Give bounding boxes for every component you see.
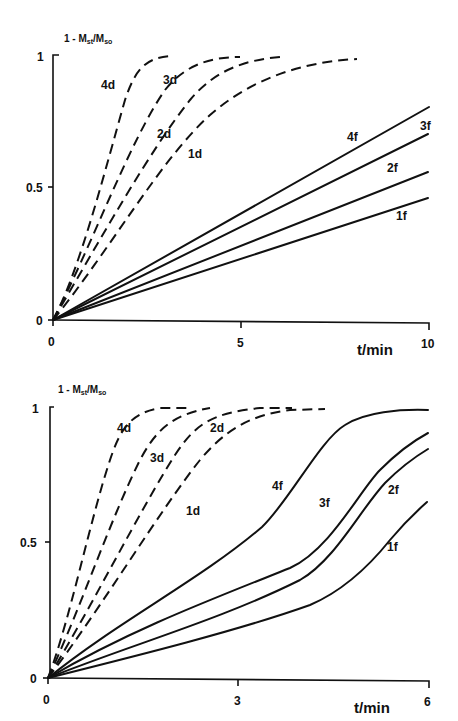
bottom-label-3d: 3d: [150, 451, 164, 465]
top-curve-3d: [53, 57, 240, 320]
top-y-axis-title: 1 - Mst/Mso: [64, 33, 112, 45]
bottom-ytick-label-05: 0.5: [20, 536, 37, 550]
top-label-3d: 3d: [163, 73, 177, 87]
top-label-4f: 4f: [347, 130, 359, 144]
top-label-2f: 2f: [387, 161, 399, 175]
top-x-axis-title: t/min: [357, 341, 393, 358]
top-label-1f: 1f: [396, 209, 408, 223]
bottom-curve-3f: [48, 433, 428, 678]
top-chart: 1 - Mst/Mso 1 0.5 0 0 5 10 t/min 4d 3d 2…: [26, 33, 435, 358]
top-curve-2f: [53, 172, 428, 320]
top-ytick-label-0: 0: [36, 314, 43, 328]
bottom-x-axis-title: t/min: [354, 699, 390, 716]
top-curve-2d: [53, 57, 280, 320]
bottom-ytick-label-1: 1: [32, 402, 39, 416]
bottom-curve-3d: [48, 408, 210, 678]
top-curve-3f: [53, 134, 428, 320]
bottom-label-4f: 4f: [272, 479, 284, 493]
top-label-2d: 2d: [157, 127, 171, 141]
top-ytick-label-05: 0.5: [26, 181, 43, 195]
top-y-axis: [53, 55, 59, 320]
top-curve-1f: [53, 198, 428, 320]
bottom-y-axis-title: 1 - Mst/Mso: [58, 384, 106, 396]
bottom-curve-2f: [48, 449, 428, 678]
bottom-xtick-label-3: 3: [234, 694, 241, 708]
bottom-label-1d: 1d: [186, 504, 200, 518]
top-xtick-label-5: 5: [237, 336, 244, 350]
bottom-curve-2d: [48, 408, 292, 678]
bottom-curve-1d: [48, 409, 325, 678]
top-label-1d: 1d: [188, 147, 202, 161]
top-label-4d: 4d: [101, 78, 115, 92]
top-xtick-label-0: 0: [48, 335, 55, 349]
bottom-xtick-label-6: 6: [424, 695, 431, 709]
top-curve-1d: [53, 59, 357, 320]
bottom-label-1f: 1f: [387, 540, 399, 554]
bottom-chart: 1 - Mst/Mso 1 0.5 0 0 3 6 t/min 4d 3d 2d…: [20, 384, 431, 716]
top-ytick-label-1: 1: [37, 50, 44, 64]
bottom-ytick-label-0: 0: [30, 672, 37, 686]
top-label-3f: 3f: [420, 119, 432, 133]
bottom-xtick-label-0: 0: [43, 693, 50, 707]
bottom-label-2f: 2f: [388, 483, 400, 497]
bottom-label-4d: 4d: [117, 421, 131, 435]
bottom-label-3f: 3f: [319, 496, 331, 510]
bottom-label-2d: 2d: [210, 421, 224, 435]
bottom-curve-4d: [48, 408, 190, 678]
top-xtick-label-10: 10: [421, 337, 435, 351]
figure: 1 - Mst/Mso 1 0.5 0 0 5 10 t/min 4d 3d 2…: [0, 0, 458, 721]
bottom-curve-4f: [48, 410, 428, 678]
bottom-y-axis: [50, 407, 54, 678]
top-curve-4f: [53, 107, 429, 320]
